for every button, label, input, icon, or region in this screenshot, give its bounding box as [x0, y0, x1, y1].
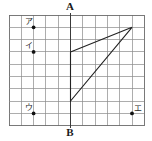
geometry-figure: アイウエ A B: [0, 0, 152, 141]
point-label-e: エ: [134, 104, 142, 113]
point-dot-u: [32, 112, 36, 116]
axis-label-a: A: [66, 0, 74, 12]
figure-canvas: アイウエ A B: [0, 0, 152, 141]
point-dot-i: [32, 50, 36, 54]
point-label-u: ウ: [25, 103, 33, 112]
labeled-points: アイウエ: [25, 17, 142, 116]
point-label-a: ア: [25, 17, 33, 26]
point-label-i: イ: [25, 41, 33, 50]
axis-label-b: B: [66, 126, 74, 138]
point-dot-a: [32, 25, 36, 29]
